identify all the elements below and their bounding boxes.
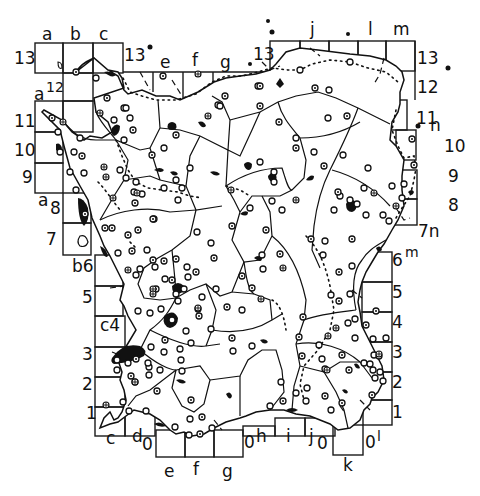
label-13-left: 13	[14, 48, 36, 68]
label-8-right: 8	[448, 195, 459, 215]
label-b6-left: b6	[72, 256, 94, 276]
label-n-right: n	[430, 115, 441, 135]
label-m-sup: m	[405, 244, 419, 260]
territory-map: a b c 13 13 e f g 13 j l m 13 12 a 12 11…	[0, 0, 480, 496]
label-c-bottom: c	[106, 428, 115, 448]
label-0-d: 0	[142, 434, 153, 454]
label-2-left: 2	[82, 374, 93, 394]
label-0-j: 0	[317, 433, 328, 453]
label-10-right: 10	[444, 136, 466, 156]
label-g-top: g	[220, 52, 231, 72]
label-10-left: 10	[14, 140, 36, 160]
small-island	[58, 62, 62, 68]
label-a-top: a	[42, 24, 52, 44]
label-13-c: 13	[124, 45, 146, 65]
label-3-left: 3	[82, 344, 93, 364]
label-1-left: 1	[86, 403, 97, 423]
label-13-right: 13	[417, 48, 439, 68]
label-3-right: 3	[392, 342, 403, 362]
label-g-bottom: g	[222, 461, 233, 481]
label-0-h: 0	[244, 432, 255, 452]
label-9-right: 9	[448, 166, 459, 186]
label-a8-a: a	[38, 190, 48, 210]
label-11-left: 11	[14, 111, 36, 131]
label-9-left: 9	[22, 167, 33, 187]
label-7n-right: 7n	[418, 221, 440, 241]
label-l-bottom: l	[377, 428, 381, 444]
label-c4-left: c4	[100, 315, 120, 335]
label-12-right: 12	[417, 77, 439, 97]
label-j-top: j	[309, 19, 315, 39]
label-a12-12: 12	[46, 79, 64, 95]
label-4-right: 4	[392, 312, 403, 332]
label-e-top: e	[160, 52, 170, 72]
label-6-right: 6	[392, 250, 403, 270]
label-f-top: f	[192, 50, 199, 70]
label-2-right: 2	[392, 372, 403, 392]
label-f-bottom: f	[193, 459, 200, 479]
label-e-bottom: e	[164, 461, 174, 481]
label-13-j: 13	[253, 44, 275, 64]
label-a12-a: a	[34, 84, 44, 104]
label-i-bottom: i	[286, 426, 291, 446]
label-5-right: 5	[392, 282, 403, 302]
label-b-top: b	[70, 24, 81, 44]
label-h-bottom: h	[256, 426, 267, 446]
label-j-bottom: j	[308, 426, 314, 446]
label-c-top: c	[99, 24, 108, 44]
label-m-top: m	[393, 19, 410, 39]
label-0-l: 0	[365, 432, 376, 452]
label-k-bottom: k	[343, 455, 353, 475]
label-5-left: 5	[82, 287, 93, 307]
label-1-right: 1	[392, 402, 403, 422]
label-l-top: l	[368, 19, 373, 39]
label-7-left: 7	[46, 229, 57, 249]
lagoon	[78, 236, 88, 247]
label-a8-8: 8	[50, 198, 61, 218]
